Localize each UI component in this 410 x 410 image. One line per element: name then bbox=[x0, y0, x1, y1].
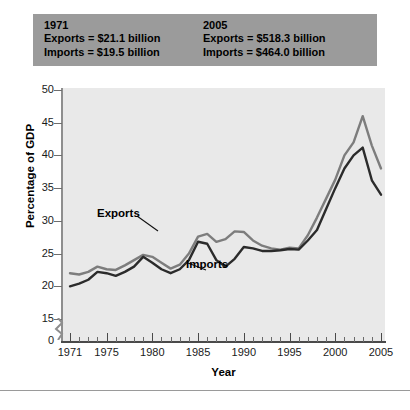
y-tick-20 bbox=[54, 286, 62, 287]
x-tick-label-1985: 1985 bbox=[176, 346, 220, 358]
x-tick-label-1975: 1975 bbox=[85, 346, 129, 358]
y-tick-40 bbox=[54, 155, 62, 156]
infobox-column-1971: 1971 Exports = $21.1 billion Imports = $… bbox=[44, 19, 160, 59]
series-label-imports: Imports bbox=[186, 258, 228, 270]
x-tick-label-2005: 2005 bbox=[359, 346, 403, 358]
x-tick-label-2000: 2000 bbox=[313, 346, 357, 358]
x-tick-label-1990: 1990 bbox=[222, 346, 266, 358]
x-axis-title: Year bbox=[61, 366, 386, 378]
summary-infobox: 1971 Exports = $21.1 billion Imports = $… bbox=[33, 14, 377, 66]
y-tick-30 bbox=[54, 221, 62, 222]
infobox-1971-year: 1971 bbox=[44, 19, 160, 32]
infobox-1971-exports: Exports = $21.1 billion bbox=[44, 32, 160, 46]
y-tick-45 bbox=[54, 123, 62, 124]
series-label-exports: Exports bbox=[97, 207, 140, 219]
y-tick-label-50: 50 bbox=[30, 84, 54, 95]
x-axis-line bbox=[61, 341, 386, 343]
series-line-exports bbox=[70, 116, 381, 274]
infobox-2005-year: 2005 bbox=[203, 19, 326, 32]
infobox-2005-imports: Imports = $464.0 billion bbox=[203, 46, 326, 60]
infobox-2005-exports: Exports = $518.3 billion bbox=[203, 32, 326, 46]
infobox-column-2005: 2005 Exports = $518.3 billion Imports = … bbox=[203, 19, 326, 59]
y-tick-25 bbox=[54, 254, 62, 255]
infobox-1971-imports: Imports = $19.5 billion bbox=[44, 46, 160, 60]
y-tick-50 bbox=[54, 90, 62, 91]
y-axis-title: Percentage of GDP bbox=[24, 101, 36, 251]
x-tick-label-1995: 1995 bbox=[268, 346, 312, 358]
footer-rule bbox=[0, 390, 410, 391]
y-tick-label-0: 0 bbox=[30, 335, 54, 346]
figure-root: 1971 Exports = $21.1 billion Imports = $… bbox=[0, 0, 410, 410]
x-tick-label-1980: 1980 bbox=[130, 346, 174, 358]
y-tick-label-15: 15 bbox=[30, 313, 54, 324]
y-tick-label-20: 20 bbox=[30, 280, 54, 291]
y-tick-35 bbox=[54, 188, 62, 189]
